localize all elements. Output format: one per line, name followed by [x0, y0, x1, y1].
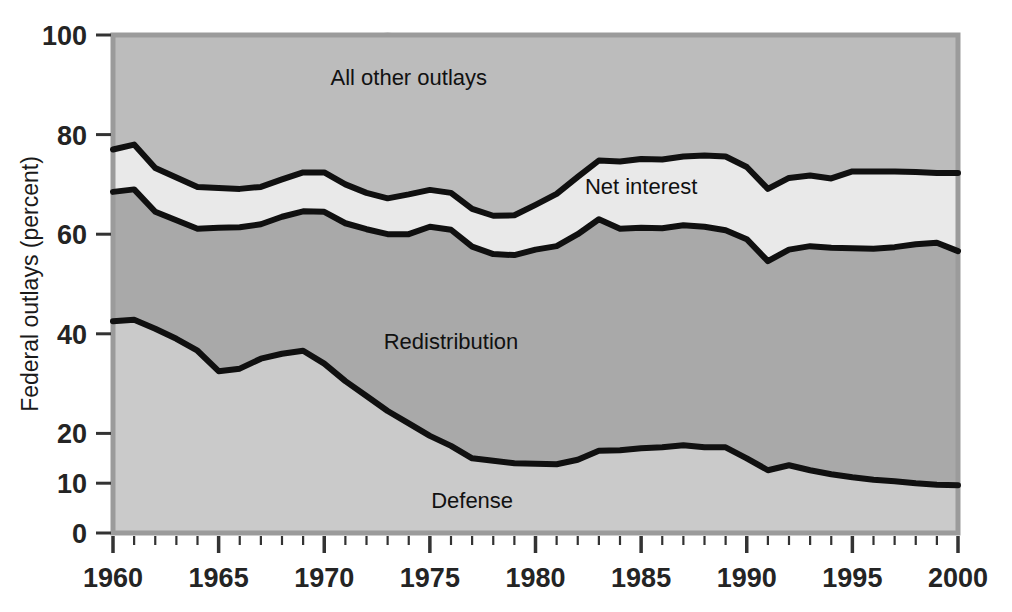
band-label-redistribution: Redistribution: [384, 329, 519, 354]
x-tick-label: 1990: [717, 563, 777, 593]
band-label-net-interest: Net interest: [585, 174, 698, 199]
x-axis-tick-labels: 196019651970197519801985199019952000: [83, 563, 988, 593]
x-tick-label: 1975: [400, 563, 460, 593]
x-tick-label: 1965: [189, 563, 249, 593]
chart-figure: 01020406080100 1960196519701975198019851…: [0, 0, 1012, 612]
y-tick-label: 40: [57, 320, 87, 350]
y-tick-label: 10: [57, 469, 87, 499]
x-tick-label: 1980: [505, 563, 565, 593]
x-tick-label: 1995: [822, 563, 882, 593]
y-tick-label: 80: [57, 121, 87, 151]
y-tick-label: 0: [72, 519, 87, 549]
x-tick-label: 1970: [294, 563, 354, 593]
y-axis-title: Federal outlays (percent): [17, 156, 43, 412]
x-tick-label: 1960: [83, 563, 143, 593]
y-tick-label: 100: [42, 21, 87, 51]
stacked-area-chart: 01020406080100 1960196519701975198019851…: [0, 0, 1012, 612]
band-label-all-other-outlays: All other outlays: [330, 65, 487, 90]
band-label-defense: Defense: [431, 488, 513, 513]
x-tick-label: 2000: [928, 563, 988, 593]
y-tick-label: 60: [57, 220, 87, 250]
area-bands: [113, 33, 958, 533]
x-tick-label: 1985: [611, 563, 671, 593]
y-tick-label: 20: [57, 419, 87, 449]
